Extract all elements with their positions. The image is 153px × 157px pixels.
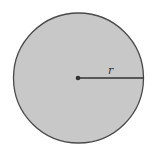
- center-dot: [76, 76, 81, 81]
- circle-diagram: r: [0, 0, 153, 157]
- radius-label: r: [108, 64, 114, 77]
